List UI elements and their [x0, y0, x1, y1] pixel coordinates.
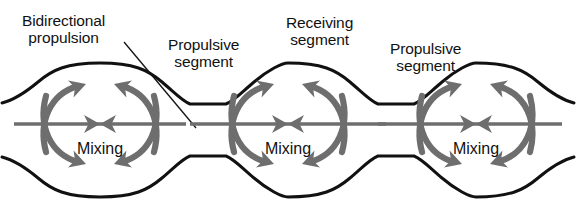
label-bidirectional-propulsion: Bidirectional propulsion [22, 12, 105, 46]
bottom-wall-outline [2, 156, 574, 197]
figure-canvas: Bidirectional propulsion Propulsive segm… [0, 0, 576, 212]
label-receiving-segment: Receiving segment [286, 14, 353, 48]
top-wall-outline [2, 63, 574, 104]
chamber-left-flow [14, 75, 186, 172]
label-propulsive-segment-right: Propulsive segment [390, 40, 461, 74]
label-propulsive-segment-left: Propulsive segment [168, 36, 239, 70]
label-mixing-left: Mixing [60, 141, 140, 157]
label-mixing-right: Mixing [436, 141, 516, 157]
chamber-right-flow [378, 75, 562, 172]
chamber-middle-flow [190, 75, 386, 172]
label-mixing-middle: Mixing [248, 141, 328, 157]
